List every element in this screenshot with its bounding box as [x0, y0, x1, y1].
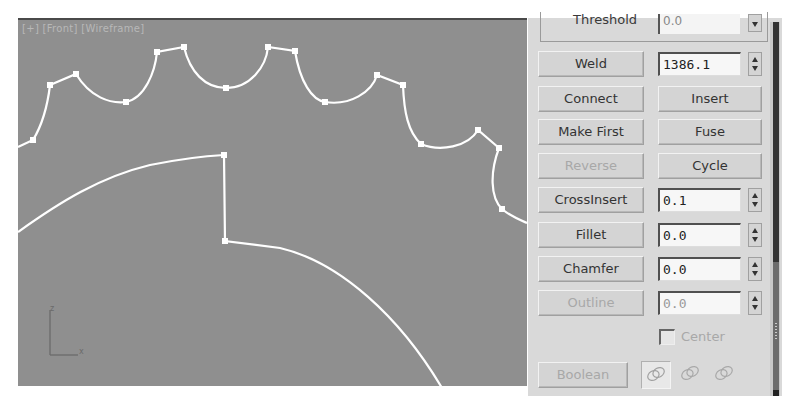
intersection-icon — [711, 361, 737, 385]
axis-gizmo-icon — [50, 310, 78, 355]
cycle-button[interactable]: Cycle — [658, 153, 762, 179]
front-viewport[interactable]: [+] [Front] [Wireframe] — [18, 18, 527, 386]
spinner-up-icon[interactable] — [752, 228, 758, 233]
spinner-up-icon[interactable] — [752, 262, 758, 267]
spinner-up-icon[interactable] — [752, 193, 758, 198]
axis-x-label: x — [79, 347, 84, 356]
fuse-button[interactable]: Fuse — [658, 119, 762, 145]
threshold-spinner[interactable] — [748, 14, 762, 32]
weld-threshold-input[interactable]: 1386.1 — [658, 52, 741, 76]
cross-insert-button[interactable]: CrossInsert — [538, 187, 644, 213]
insert-button[interactable]: Insert — [658, 86, 762, 112]
spinner-down-icon[interactable] — [752, 305, 758, 310]
axis-z-label: z — [50, 304, 54, 313]
spinner-down-icon[interactable] — [752, 271, 758, 276]
weld-button[interactable]: Weld — [538, 51, 644, 77]
cross-insert-input[interactable]: 0.1 — [658, 188, 741, 212]
intersection-button[interactable] — [709, 361, 739, 389]
scrollbar-thumb[interactable] — [773, 22, 779, 262]
spinner-down-icon[interactable] — [752, 66, 758, 71]
center-checkbox[interactable] — [659, 329, 675, 345]
scrollbar-end — [773, 390, 779, 396]
chamfer-button[interactable]: Chamfer — [538, 256, 644, 282]
make-first-button[interactable]: Make First — [538, 119, 644, 145]
connect-button[interactable]: Connect — [538, 86, 644, 112]
outer-spline — [18, 47, 527, 223]
threshold-label: Threshold — [573, 12, 637, 27]
spline-canvas[interactable] — [18, 20, 527, 386]
boolean-button[interactable]: Boolean — [538, 362, 628, 388]
subtraction-icon — [677, 361, 703, 385]
union-button[interactable] — [641, 361, 671, 389]
subtraction-button[interactable] — [675, 361, 705, 389]
union-icon — [643, 362, 669, 386]
chamfer-input[interactable]: 0.0 — [658, 257, 741, 281]
spinner-down-icon[interactable] — [752, 202, 758, 207]
scrollbar-grip-icon — [775, 323, 777, 339]
spinner-up-icon[interactable] — [752, 57, 758, 62]
reverse-button[interactable]: Reverse — [538, 153, 644, 179]
spline-vertices — [30, 44, 505, 244]
weld-spinner[interactable] — [748, 52, 762, 76]
spinner-down-icon[interactable] — [752, 237, 758, 242]
fillet-button[interactable]: Fillet — [538, 222, 644, 248]
chamfer-spinner[interactable] — [748, 257, 762, 281]
fillet-input[interactable]: 0.0 — [658, 223, 741, 247]
outline-button[interactable]: Outline — [538, 290, 644, 316]
center-label: Center — [681, 329, 725, 344]
outline-input[interactable]: 0.0 — [658, 291, 741, 315]
geometry-rollout-panel: Threshold 0.0 Weld 1386.1 Connect Insert… — [528, 18, 782, 396]
threshold-input[interactable]: 0.0 — [658, 14, 740, 34]
spinner-down-icon[interactable] — [752, 22, 758, 27]
spinner-up-icon[interactable] — [752, 296, 758, 301]
outline-spinner[interactable] — [748, 291, 762, 315]
fillet-spinner[interactable] — [748, 223, 762, 247]
cross-insert-spinner[interactable] — [748, 188, 762, 212]
